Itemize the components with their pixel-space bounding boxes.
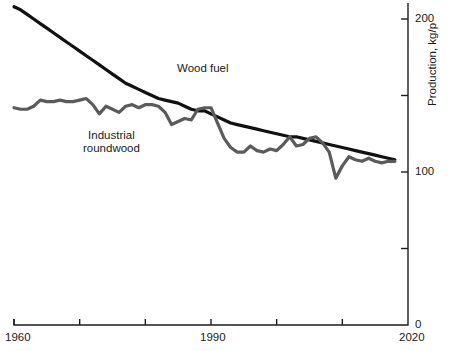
y-tick-label-0: 0 xyxy=(415,318,421,330)
annotation-industrial-roundwood-line1: Industrial xyxy=(88,129,135,141)
y-axis-ticks xyxy=(401,19,408,249)
annotation-industrial-roundwood-line2: roundwood xyxy=(83,142,140,154)
annotation-wood-fuel: Wood fuel xyxy=(177,62,229,75)
x-axis-ticks xyxy=(14,319,342,325)
series-wood-fuel xyxy=(14,7,395,160)
x-tick-label-1990: 1990 xyxy=(200,331,226,343)
annotation-industrial-roundwood: Industrialroundwood xyxy=(83,129,140,155)
x-tick-label-1960: 1960 xyxy=(5,331,31,343)
x-tick-label-2020: 2020 xyxy=(399,331,425,343)
axis-lines xyxy=(14,3,408,325)
y-tick-label-100: 100 xyxy=(415,165,434,177)
chart-plot-area xyxy=(0,0,453,351)
chart-container: Wood fuel Industrialroundwood Production… xyxy=(0,0,453,351)
y-tick-label-200: 200 xyxy=(415,12,434,24)
